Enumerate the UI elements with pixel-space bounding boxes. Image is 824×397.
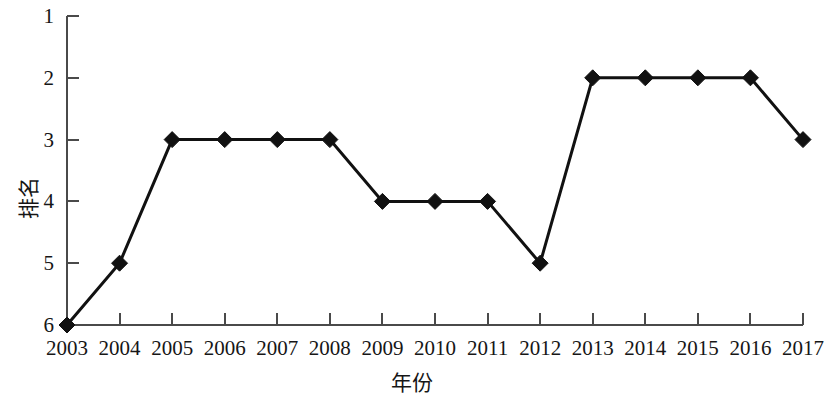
x-axis-title: 年份 — [0, 366, 824, 396]
data-point-marker — [164, 132, 180, 148]
x-axis-tick-label: 2017 — [782, 338, 824, 359]
y-axis-tick-label: 1 — [20, 6, 54, 27]
x-axis-tick-label: 2011 — [467, 338, 508, 359]
y-axis-title: 排名 — [12, 177, 42, 219]
x-axis-tick-label: 2004 — [99, 338, 141, 359]
x-axis-tick-label: 2010 — [414, 338, 456, 359]
x-axis-ticks — [67, 313, 803, 325]
data-point-marker — [269, 132, 285, 148]
rank-series-markers — [59, 70, 811, 333]
data-point-marker — [690, 70, 706, 86]
y-axis-tick-label: 3 — [20, 129, 54, 150]
x-axis-tick-label: 2009 — [361, 338, 403, 359]
y-axis-tick-label: 5 — [20, 253, 54, 274]
y-axis-tick-label: 6 — [20, 315, 54, 336]
data-point-marker — [217, 132, 233, 148]
x-axis-tick-label: 2016 — [729, 338, 771, 359]
x-axis-tick-label: 2013 — [572, 338, 614, 359]
data-point-marker — [427, 193, 443, 209]
x-axis-tick-label: 2015 — [677, 338, 719, 359]
rank-by-year-line-chart: 123456 200320042005200620072008200920102… — [0, 0, 824, 397]
x-axis-tick-label: 2014 — [624, 338, 666, 359]
y-axis-ticks — [67, 16, 79, 325]
x-axis-tick-label: 2012 — [519, 338, 561, 359]
x-axis-tick-label: 2003 — [46, 338, 88, 359]
x-axis-tick-label: 2006 — [204, 338, 246, 359]
axes — [67, 16, 803, 325]
y-axis-tick-label: 2 — [20, 67, 54, 88]
x-axis-tick-label: 2005 — [151, 338, 193, 359]
data-point-marker — [637, 70, 653, 86]
x-axis-tick-label: 2008 — [309, 338, 351, 359]
data-point-marker — [585, 70, 601, 86]
x-axis-tick-label: 2007 — [256, 338, 298, 359]
